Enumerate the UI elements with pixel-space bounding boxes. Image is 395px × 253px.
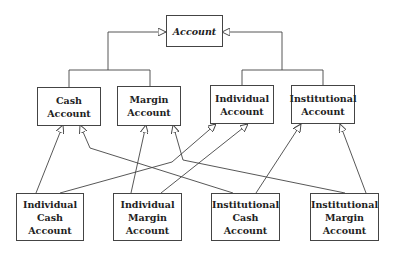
class-name-line: Account <box>224 224 267 237</box>
class-name-line: Margin <box>128 211 167 224</box>
class-name-line: Institutional <box>290 92 357 105</box>
class-name-line: Individual <box>215 92 269 105</box>
class-cash-account: Cash Account <box>37 87 101 126</box>
edge-indcash-to-cash <box>36 125 63 193</box>
class-name-line: Account <box>301 105 344 118</box>
edge-indcash-to-individual <box>60 124 216 193</box>
class-individual-cash-account: Individual Cash Account <box>16 193 84 241</box>
class-name-line: Institutional <box>212 198 279 211</box>
class-name-line: Margin <box>325 211 364 224</box>
class-institutional-margin-account: Institutional Margin Account <box>310 193 379 241</box>
class-individual-margin-account: Individual Margin Account <box>113 193 182 241</box>
class-hierarchy-diagram: Account Cash Account Margin Account Indi… <box>0 0 395 253</box>
class-name-line: Account <box>28 224 71 237</box>
class-institutional-account: Institutional Account <box>291 85 355 124</box>
class-name-line: Account <box>126 224 169 237</box>
edge-individual-institutional-to-account <box>222 32 323 85</box>
class-name-line: Individual <box>23 198 77 211</box>
edge-instmargin-to-margin <box>173 125 345 193</box>
edge-indmargin-to-margin <box>131 125 146 193</box>
class-name-line: Account <box>220 105 263 118</box>
edge-instcash-to-cash <box>80 125 233 193</box>
class-margin-account: Margin Account <box>117 86 181 126</box>
class-name-line: Cash <box>56 94 82 107</box>
class-institutional-cash-account: Institutional Cash Account <box>211 193 280 241</box>
class-name-line: Individual <box>120 198 174 211</box>
class-name-line: Margin <box>130 93 169 106</box>
edge-instmargin-to-institutional <box>340 124 366 193</box>
class-name-line: Account <box>323 224 366 237</box>
class-name-line: Account <box>173 25 216 38</box>
class-individual-account: Individual Account <box>210 85 274 124</box>
class-name-line: Cash <box>233 211 259 224</box>
edge-cash-margin-to-account <box>69 32 166 87</box>
class-name-line: Account <box>127 106 170 119</box>
class-account: Account <box>166 15 223 47</box>
class-name-line: Account <box>47 107 90 120</box>
class-name-line: Institutional <box>311 198 378 211</box>
class-name-line: Cash <box>37 211 63 224</box>
